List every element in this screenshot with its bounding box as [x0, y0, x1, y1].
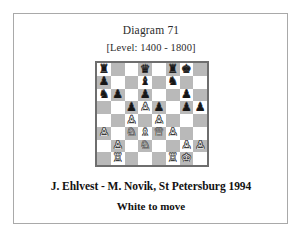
square-c8[interactable] [125, 63, 139, 76]
square-a2[interactable] [97, 140, 111, 153]
square-c4[interactable]: ♙ [125, 114, 139, 127]
square-a3[interactable]: ♙ [97, 127, 111, 140]
white-rook-f1[interactable]: ♖ [167, 153, 177, 165]
square-f1[interactable]: ♖ [166, 152, 180, 165]
square-e3[interactable]: ♕ [152, 127, 166, 140]
white-pawn-c4[interactable]: ♙ [126, 114, 136, 126]
square-h2[interactable]: ♙ [193, 140, 207, 153]
square-c1[interactable] [125, 152, 139, 165]
square-a8[interactable]: ♜ [97, 63, 111, 76]
square-g2[interactable]: ♙ [180, 140, 194, 153]
square-d1[interactable] [138, 152, 152, 165]
square-d5[interactable]: ♙ [138, 101, 152, 114]
square-a4[interactable] [97, 114, 111, 127]
square-f2[interactable] [166, 140, 180, 153]
square-g6[interactable]: ♟ [180, 89, 194, 102]
game-caption: J. Ehlvest - M. Novik, St Petersburg 199… [0, 180, 302, 192]
white-queen-e3[interactable]: ♕ [154, 127, 164, 139]
square-b3[interactable] [111, 127, 125, 140]
chess-board[interactable]: ♜♛♜♚♟♝♞♞♟♟♟♟♙♟♟♟♙♙♙♘♗♕♙♙♘♙♙♖♖♔ [95, 61, 209, 167]
square-d3[interactable]: ♗ [138, 127, 152, 140]
square-c2[interactable] [125, 140, 139, 153]
black-pawn-d6[interactable]: ♟ [140, 89, 150, 101]
black-pawn-h5[interactable]: ♟ [195, 102, 205, 114]
square-c3[interactable]: ♘ [125, 127, 139, 140]
square-e1[interactable] [152, 152, 166, 165]
square-e5[interactable]: ♟ [152, 101, 166, 114]
square-f4[interactable] [166, 114, 180, 127]
square-h5[interactable]: ♟ [193, 101, 207, 114]
square-d6[interactable]: ♟ [138, 89, 152, 102]
black-king-g8[interactable]: ♚ [181, 63, 191, 74]
black-pawn-g6[interactable]: ♟ [181, 89, 191, 101]
black-queen-d8[interactable]: ♛ [140, 63, 150, 74]
black-bishop-d7[interactable]: ♝ [140, 76, 150, 88]
square-h1[interactable] [193, 152, 207, 165]
square-h6[interactable] [193, 89, 207, 102]
square-b8[interactable] [111, 63, 125, 76]
square-g5[interactable]: ♟ [180, 101, 194, 114]
square-h4[interactable] [193, 114, 207, 127]
square-b7[interactable] [111, 76, 125, 89]
black-pawn-a7[interactable]: ♟ [99, 76, 109, 88]
square-a6[interactable]: ♞ [97, 89, 111, 102]
black-rook-f8[interactable]: ♜ [167, 63, 177, 74]
square-f3[interactable]: ♙ [166, 127, 180, 140]
square-f5[interactable] [166, 101, 180, 114]
white-pawn-b2[interactable]: ♙ [112, 140, 122, 152]
square-f7[interactable]: ♞ [166, 76, 180, 89]
white-bishop-d3[interactable]: ♗ [140, 127, 150, 139]
square-a5[interactable] [97, 101, 111, 114]
black-rook-a8[interactable]: ♜ [99, 63, 109, 74]
square-g3[interactable] [180, 127, 194, 140]
square-b1[interactable]: ♖ [111, 152, 125, 165]
square-g1[interactable]: ♔ [180, 152, 194, 165]
square-e2[interactable] [152, 140, 166, 153]
square-b5[interactable] [111, 101, 125, 114]
chess-board-container: ♜♛♜♚♟♝♞♞♟♟♟♟♙♟♟♟♙♙♙♘♗♕♙♙♘♙♙♖♖♔ [95, 61, 209, 167]
black-pawn-e5[interactable]: ♟ [154, 102, 164, 114]
square-f8[interactable]: ♜ [166, 63, 180, 76]
square-g8[interactable]: ♚ [180, 63, 194, 76]
square-f6[interactable] [166, 89, 180, 102]
square-e8[interactable] [152, 63, 166, 76]
white-knight-d2[interactable]: ♘ [140, 140, 150, 152]
square-h8[interactable] [193, 63, 207, 76]
diagram-page: Diagram 71 [Level: 1400 - 1800] ♜♛♜♚♟♝♞♞… [0, 0, 302, 238]
square-a1[interactable] [97, 152, 111, 165]
white-pawn-a3[interactable]: ♙ [99, 127, 109, 139]
black-knight-f7[interactable]: ♞ [167, 76, 177, 88]
square-h7[interactable] [193, 76, 207, 89]
square-e4[interactable]: ♙ [152, 114, 166, 127]
square-g4[interactable] [180, 114, 194, 127]
side-to-move-label: White to move [0, 200, 302, 212]
square-d4[interactable] [138, 114, 152, 127]
white-pawn-g2[interactable]: ♙ [181, 140, 191, 152]
black-pawn-g5[interactable]: ♟ [181, 102, 191, 114]
black-knight-a6[interactable]: ♞ [99, 89, 109, 101]
square-b6[interactable]: ♟ [111, 89, 125, 102]
white-rook-b1[interactable]: ♖ [112, 153, 122, 165]
black-pawn-b6[interactable]: ♟ [112, 89, 122, 101]
square-e6[interactable] [152, 89, 166, 102]
square-d7[interactable]: ♝ [138, 76, 152, 89]
square-a7[interactable]: ♟ [97, 76, 111, 89]
square-c6[interactable] [125, 89, 139, 102]
white-pawn-f3[interactable]: ♙ [167, 127, 177, 139]
square-g7[interactable] [180, 76, 194, 89]
page-title: Diagram 71 [0, 24, 302, 36]
square-e7[interactable] [152, 76, 166, 89]
black-pawn-c5[interactable]: ♟ [126, 102, 136, 114]
white-pawn-h2[interactable]: ♙ [195, 140, 205, 152]
square-h3[interactable] [193, 127, 207, 140]
square-b2[interactable]: ♙ [111, 140, 125, 153]
square-c5[interactable]: ♟ [125, 101, 139, 114]
white-king-g1[interactable]: ♔ [181, 153, 191, 165]
square-b4[interactable] [111, 114, 125, 127]
white-pawn-d5[interactable]: ♙ [140, 102, 150, 114]
white-knight-c3[interactable]: ♘ [126, 127, 136, 139]
square-d2[interactable]: ♘ [138, 140, 152, 153]
square-d8[interactable]: ♛ [138, 63, 152, 76]
square-c7[interactable] [125, 76, 139, 89]
white-pawn-e4[interactable]: ♙ [154, 114, 164, 126]
